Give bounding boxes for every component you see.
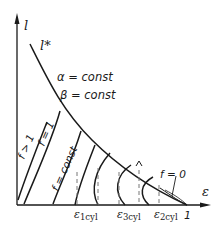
beta-const-label: β = const (59, 88, 116, 102)
curve-f-2 (75, 145, 95, 205)
x-axis-arrow-icon (200, 203, 211, 208)
y-axis-arrow-icon (15, 13, 20, 24)
x-tick-eps2cyl: ε2cyl (154, 208, 178, 222)
alpha-const-label: α = const (57, 70, 113, 84)
x-axis-label: ε (202, 184, 209, 199)
x-tick-eps3cyl: ε3cyl (117, 208, 141, 222)
phase-diagram: l ε 1 l* α = const β = const f > 1 f = 1… (0, 0, 222, 226)
x-tick-eps1cyl: ε1cyl (74, 208, 98, 222)
curve-f-3 (94, 153, 110, 205)
caret-mark-icon (136, 161, 142, 166)
x-end-tick-label: 1 (184, 209, 191, 222)
l-star-label: l* (40, 38, 51, 53)
f-const-label: f = const (49, 144, 80, 193)
y-axis-label: l (24, 18, 28, 33)
f-zero-label: f = 0 (160, 168, 186, 180)
